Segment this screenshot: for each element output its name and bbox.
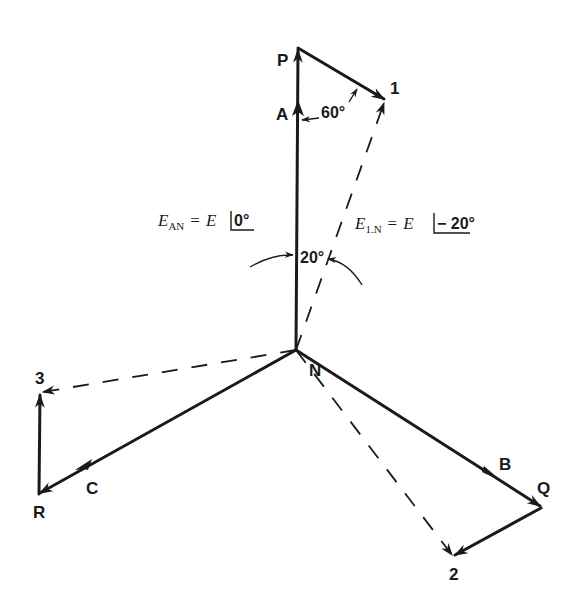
arrow-c-icon xyxy=(75,459,92,470)
label-1: 1 xyxy=(390,79,399,98)
ean-var: E xyxy=(157,211,169,230)
arrow-b-icon xyxy=(482,466,499,479)
e1n-angle: − 20° xyxy=(437,215,475,232)
ean-rhs: E xyxy=(205,211,217,230)
e1n-sub: 1.N xyxy=(365,223,381,235)
svg-text:E1.N=E: E1.N=E xyxy=(354,214,414,235)
label-3: 3 xyxy=(35,369,44,388)
svg-text:EAN=E: EAN=E xyxy=(157,211,217,232)
label-b: B xyxy=(499,455,511,474)
phasor-bn xyxy=(296,350,540,506)
label-r: R xyxy=(33,503,45,522)
phasor-q-to-2 xyxy=(455,508,541,555)
equation-ean: EAN=E 0° xyxy=(157,211,254,232)
label-c: C xyxy=(86,479,98,498)
phasor-an xyxy=(292,50,304,350)
equation-e1n: E1.N=E − 20° xyxy=(354,213,475,235)
e1n-var: E xyxy=(354,214,366,233)
phasor-p-to-1 xyxy=(298,48,384,99)
label-q: Q xyxy=(537,479,550,498)
phasor-r-to-3 xyxy=(39,395,40,494)
label-n: N xyxy=(309,361,321,380)
angle-label-60: 60° xyxy=(321,104,345,121)
label-a: A xyxy=(276,105,288,124)
phasor-diagram: P 1 N 3 R Q 2 A B C 60° 20° EAN=E 0° E1.… xyxy=(0,0,584,612)
e1n-equals: = xyxy=(388,214,398,233)
ean-angle: 0° xyxy=(234,212,249,229)
label-p: P xyxy=(277,51,288,70)
ean-sub: AN xyxy=(168,220,184,232)
ean-equals: = xyxy=(190,211,200,230)
angle-label-20: 20° xyxy=(300,249,324,266)
label-2: 2 xyxy=(449,565,458,584)
dashed-phasor-n-to-2 xyxy=(296,350,452,555)
e1n-rhs: E xyxy=(402,214,414,233)
